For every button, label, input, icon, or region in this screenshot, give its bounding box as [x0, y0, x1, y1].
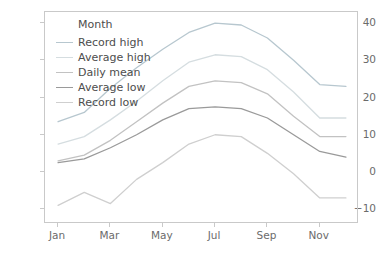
legend-color-swatch	[56, 102, 73, 103]
legend-item[interactable]: Record low	[56, 95, 151, 110]
line-series	[58, 107, 346, 163]
legend-item-label: Daily mean	[78, 66, 141, 79]
legend-color-swatch	[56, 42, 73, 43]
x-tick-label: May	[132, 230, 192, 241]
legend-color-swatch	[56, 57, 73, 58]
legend-title: Month	[78, 18, 151, 32]
legend-item-label: Average low	[78, 81, 145, 94]
chart-figure: −10010203040 JanMarMayJulSepNov Month Re…	[0, 0, 376, 262]
legend-item-label: Record low	[78, 96, 138, 109]
legend-item-label: Average high	[78, 51, 151, 64]
legend-item-label: Record high	[78, 36, 143, 49]
legend-item[interactable]: Average high	[56, 50, 151, 65]
legend-item[interactable]: Average low	[56, 80, 151, 95]
legend: Month Record highAverage highDaily meanA…	[56, 18, 151, 110]
x-tick-label: Jul	[184, 230, 244, 241]
legend-item[interactable]: Daily mean	[56, 65, 151, 80]
x-tick-label: Nov	[289, 230, 349, 241]
x-tick-label: Jan	[27, 230, 87, 241]
legend-item[interactable]: Record high	[56, 35, 151, 50]
x-tick-label: Sep	[236, 230, 296, 241]
legend-color-swatch	[56, 87, 73, 88]
x-tick-label: Mar	[79, 230, 139, 241]
legend-entries: Record highAverage highDaily meanAverage…	[56, 35, 151, 110]
legend-color-swatch	[56, 72, 73, 73]
